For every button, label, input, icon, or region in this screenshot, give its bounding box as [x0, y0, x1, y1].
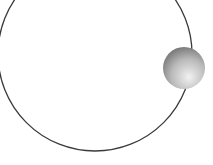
orbit-diagram — [0, 0, 213, 165]
orbiting-sphere — [163, 47, 205, 89]
orbit-path — [0, 0, 192, 151]
